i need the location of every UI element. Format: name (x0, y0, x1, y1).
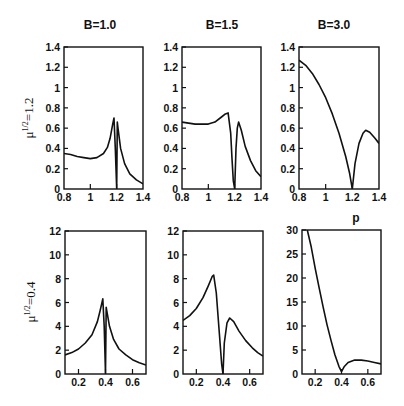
corner-label-p: p (352, 211, 359, 225)
y-tick-label: 8 (55, 273, 61, 285)
y-tick-label: 1.4 (45, 41, 60, 53)
y-tick-label: 12 (167, 225, 179, 237)
y-tick-label: 8 (173, 273, 179, 285)
column-titles: B=1.0 B=1.5 B=3.0 (84, 18, 351, 32)
y-tick-label: 20 (286, 272, 298, 284)
data-curve (65, 299, 146, 374)
plot-frame (299, 47, 379, 189)
y-tick-label: 0.4 (45, 142, 60, 154)
row-label-bottom: μ1/2=0.4 (23, 281, 38, 322)
y-tick-label: 2 (55, 344, 61, 356)
y-tick-label: 1.2 (45, 61, 60, 73)
plot-frame (302, 230, 381, 374)
column-title-b3: B=3.0 (318, 18, 351, 32)
y-tick-label: 1.4 (163, 41, 178, 53)
y-tick-label: 0 (55, 368, 61, 380)
y-tick-label: 0 (173, 368, 179, 380)
svg-text:μ1/2=0.4: μ1/2=0.4 (23, 281, 38, 322)
x-tick-label: 1.2 (109, 191, 124, 203)
y-tick-label: 0.4 (280, 142, 295, 154)
y-tick-label: 1.2 (280, 61, 295, 73)
y-tick-label: 0.8 (45, 102, 60, 114)
x-tick-label: 0.4 (216, 376, 231, 388)
column-title-b1: B=1.0 (84, 18, 117, 32)
plot-frame (64, 47, 143, 189)
y-tick-label: 4 (55, 320, 61, 332)
y-tick-label: 0.8 (163, 102, 178, 114)
x-tick-label: 1 (323, 191, 329, 203)
y-tick-label: 0.2 (280, 163, 295, 175)
x-tick-label: 0.4 (334, 376, 349, 388)
panel-1-2: 0510152025300.20.40.6 (286, 224, 381, 388)
y-tick-label: 1 (54, 82, 60, 94)
x-tick-label: 0.8 (292, 191, 307, 203)
data-curve (64, 118, 143, 189)
x-tick-label: 0.2 (71, 376, 86, 388)
y-tick-label: 0.2 (163, 163, 178, 175)
y-tick-label: 12 (49, 225, 61, 237)
y-tick-label: 25 (286, 248, 298, 260)
x-tick-label: 0.2 (189, 376, 204, 388)
y-tick-label: 6 (55, 297, 61, 309)
x-tick-label: 1.4 (254, 191, 269, 203)
y-tick-label: 0.4 (163, 142, 178, 154)
panel-0-1: 00.20.40.60.811.21.40.811.21.4 (163, 41, 268, 203)
panels: 00.20.40.60.811.21.40.811.21.400.20.40.6… (45, 41, 386, 388)
x-tick-label: 0.6 (242, 376, 257, 388)
x-tick-label: 0.6 (125, 376, 140, 388)
y-tick-label: 0.6 (280, 122, 295, 134)
x-tick-label: 0.2 (308, 376, 323, 388)
x-tick-label: 0.8 (175, 191, 190, 203)
x-tick-label: 0.6 (361, 376, 376, 388)
y-tick-label: 2 (173, 344, 179, 356)
x-tick-label: 1 (205, 191, 211, 203)
y-tick-label: 6 (173, 297, 179, 309)
y-tick-label: 1 (172, 82, 178, 94)
y-tick-label: 10 (49, 249, 61, 261)
x-tick-label: 1.4 (372, 191, 387, 203)
column-title-b15: B=1.5 (206, 18, 239, 32)
y-tick-label: 0.6 (163, 122, 178, 134)
row-label-top-value: = (21, 114, 36, 121)
y-tick-label: 1 (289, 82, 295, 94)
svg-text:μ1/2=1.2: μ1/2=1.2 (21, 98, 36, 139)
y-tick-label: 4 (173, 320, 179, 332)
y-tick-label: 10 (167, 249, 179, 261)
panel-1-0: 0246810120.20.40.6 (49, 225, 146, 388)
data-curve (307, 230, 381, 372)
plot-frame (183, 231, 263, 374)
x-tick-label: 1.2 (227, 191, 242, 203)
x-tick-label: 1 (87, 191, 93, 203)
y-tick-label: 0.6 (45, 122, 60, 134)
y-tick-label: 1.2 (163, 61, 178, 73)
x-tick-label: 0.4 (98, 376, 113, 388)
y-tick-label: 1.4 (280, 41, 295, 53)
y-tick-label: 10 (286, 320, 298, 332)
y-tick-label: 30 (286, 224, 298, 236)
data-curve (182, 113, 261, 189)
data-curve (299, 60, 379, 189)
data-curve (183, 275, 263, 374)
y-tick-label: 0.2 (45, 163, 60, 175)
x-tick-label: 1.4 (136, 191, 151, 203)
row-label-top: μ1/2=1.2 (21, 98, 36, 139)
figure: B=1.0 B=1.5 B=3.0 μ1/2=1.2 μ1/2=0.4 p 00… (0, 0, 404, 406)
x-tick-label: 0.8 (57, 191, 72, 203)
panel-0-2: 00.20.40.60.811.21.40.811.21.4 (280, 41, 386, 203)
row-label-bottom-value: = (23, 298, 38, 305)
y-tick-label: 15 (286, 296, 298, 308)
panel-1-1: 0246810120.20.40.6 (167, 225, 263, 388)
panel-0-0: 00.20.40.60.811.21.40.811.21.4 (45, 41, 150, 203)
y-tick-label: 5 (292, 344, 298, 356)
x-tick-label: 1.2 (345, 191, 360, 203)
y-tick-label: 0.8 (280, 102, 295, 114)
y-tick-label: 0 (292, 368, 298, 380)
